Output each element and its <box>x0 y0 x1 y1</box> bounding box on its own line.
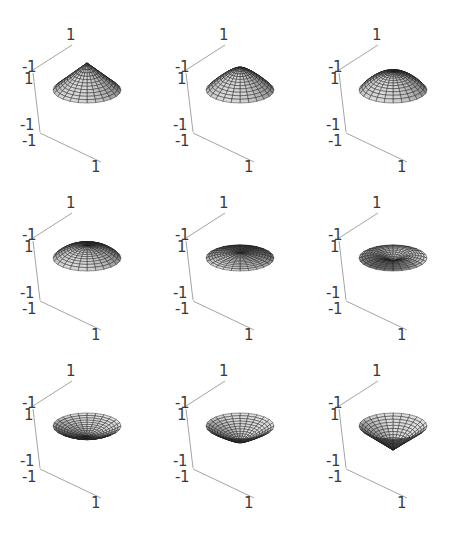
tick-label-back-top: 1 <box>219 364 228 379</box>
axis-vertical-line <box>339 241 346 300</box>
tick-label-corner-bottom-b: -1 <box>328 134 342 149</box>
axis-back-line <box>339 213 378 238</box>
tick-label-corner-bottom-a: -1 <box>173 286 187 301</box>
tick-label-corner-top-b: 1 <box>177 240 186 255</box>
tick-label-front-right: 1 <box>91 496 100 511</box>
axis-vertical-line <box>33 73 40 132</box>
axis-back-line <box>33 213 72 238</box>
surface-plot-panel-9: 1-11-1-11 <box>306 336 450 518</box>
axis-back-line <box>33 381 72 406</box>
axis-back-line <box>186 213 225 238</box>
surface-plot-panel-3: 1-11-1-11 <box>306 0 450 182</box>
tick-label-corner-bottom-b: -1 <box>328 302 342 317</box>
surface-mesh <box>359 70 427 103</box>
tick-label-corner-top-b: 1 <box>24 240 33 255</box>
tick-label-corner-top-b: 1 <box>24 72 33 87</box>
tick-label-back-top: 1 <box>66 28 75 43</box>
tick-label-front-right: 1 <box>397 496 406 511</box>
tick-label-corner-bottom-a: -1 <box>326 118 340 133</box>
tick-label-corner-bottom-a: -1 <box>326 286 340 301</box>
axis-vertical-line <box>33 241 40 300</box>
axis-vertical-line <box>186 409 193 468</box>
tick-label-corner-bottom-b: -1 <box>22 470 36 485</box>
tick-label-back-top: 1 <box>372 28 381 43</box>
tick-label-corner-bottom-b: -1 <box>175 302 189 317</box>
axis-vertical-line <box>186 241 193 300</box>
surface-mesh <box>359 245 427 271</box>
surface-plot-grid: 1-11-1-111-11-1-111-11-1-111-11-1-111-11… <box>0 0 450 546</box>
surface-mesh <box>206 413 274 443</box>
tick-label-corner-top-b: 1 <box>177 408 186 423</box>
axis-vertical-line <box>33 409 40 468</box>
surface-mesh <box>359 413 427 450</box>
surface-plot-panel-7: 1-11-1-11 <box>0 336 150 518</box>
tick-label-corner-top-b: 1 <box>330 240 339 255</box>
surface-plot-panel-8: 1-11-1-11 <box>153 336 303 518</box>
tick-label-corner-top-b: 1 <box>24 408 33 423</box>
tick-label-back-top: 1 <box>372 364 381 379</box>
axis-back-line <box>339 381 378 406</box>
tick-label-corner-bottom-b: -1 <box>22 134 36 149</box>
surface-plot-panel-1: 1-11-1-11 <box>0 0 150 182</box>
tick-label-corner-bottom-a: -1 <box>20 286 34 301</box>
surface-mesh <box>53 413 121 440</box>
surface-plot-panel-6: 1-11-1-11 <box>306 168 450 350</box>
tick-label-corner-bottom-a: -1 <box>20 118 34 133</box>
tick-label-corner-top-b: 1 <box>177 72 186 87</box>
tick-label-corner-bottom-a: -1 <box>20 454 34 469</box>
surface-mesh <box>53 63 121 103</box>
tick-label-back-top: 1 <box>219 196 228 211</box>
tick-label-corner-top-b: 1 <box>330 72 339 87</box>
tick-label-back-top: 1 <box>372 196 381 211</box>
tick-label-corner-bottom-b: -1 <box>175 134 189 149</box>
axis-vertical-line <box>186 73 193 132</box>
surface-plot-panel-4: 1-11-1-11 <box>0 168 150 350</box>
axis-vertical-line <box>339 73 346 132</box>
axis-back-line <box>186 45 225 70</box>
tick-label-corner-bottom-b: -1 <box>22 302 36 317</box>
surface-plot-panel-5: 1-11-1-11 <box>153 168 303 350</box>
surface-mesh <box>53 242 121 272</box>
tick-label-corner-bottom-a: -1 <box>173 118 187 133</box>
tick-label-back-top: 1 <box>219 28 228 43</box>
tick-label-corner-top-b: 1 <box>330 408 339 423</box>
axis-back-line <box>186 381 225 406</box>
tick-label-back-top: 1 <box>66 196 75 211</box>
tick-label-back-top: 1 <box>66 364 75 379</box>
tick-label-corner-bottom-a: -1 <box>173 454 187 469</box>
tick-label-corner-bottom-b: -1 <box>175 470 189 485</box>
surface-plot-panel-2: 1-11-1-11 <box>153 0 303 182</box>
surface-mesh <box>206 67 274 103</box>
axis-back-line <box>339 45 378 70</box>
tick-label-corner-bottom-b: -1 <box>328 470 342 485</box>
tick-label-corner-bottom-a: -1 <box>326 454 340 469</box>
tick-label-front-right: 1 <box>244 496 253 511</box>
axis-vertical-line <box>339 409 346 468</box>
surface-mesh <box>206 245 274 271</box>
axis-back-line <box>33 45 72 70</box>
